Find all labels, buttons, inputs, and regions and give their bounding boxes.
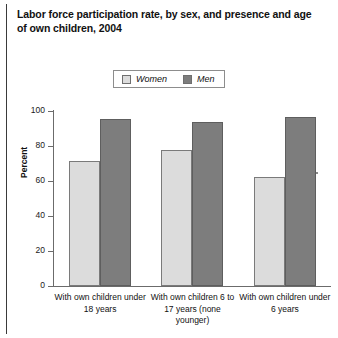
- bar-women-1: [161, 150, 192, 286]
- x-axis-category-labels: With own children under 18 years With ow…: [54, 292, 331, 327]
- y-tick-label-0: 0: [40, 280, 45, 290]
- bar-men-2: [285, 117, 316, 286]
- legend-item-women: Women: [122, 74, 167, 84]
- y-tick-label-20: 20: [36, 245, 45, 255]
- y-tick-20: 20: [48, 251, 53, 252]
- y-tick-label-100: 100: [31, 105, 45, 115]
- y-tick-80: 80: [48, 146, 53, 147]
- legend-label-men: Men: [197, 74, 215, 84]
- bar-men-0: [100, 119, 131, 286]
- stray-mark: [316, 172, 318, 174]
- chart-figure: Labor force participation rate, by sex, …: [0, 0, 338, 338]
- x-axis-label-0: With own children under 18 years: [54, 292, 146, 327]
- x-axis-label-2: With own children under 6 years: [239, 292, 331, 327]
- bar-women-0: [69, 161, 100, 286]
- y-tick-60: 60: [48, 181, 53, 182]
- legend-item-men: Men: [183, 74, 215, 84]
- x-axis-label-1: With own children 6 to 17 years (none yo…: [146, 292, 238, 327]
- bar-group-1: [161, 110, 223, 286]
- bar-men-1: [192, 122, 223, 286]
- bar-groups: [54, 110, 331, 286]
- plot-area: 0 20 40 60 80 100: [53, 110, 331, 287]
- bar-women-2: [254, 177, 285, 286]
- bar-group-2: [254, 110, 316, 286]
- page-title: Labor force participation rate, by sex, …: [17, 8, 317, 35]
- legend-swatch-women: [122, 75, 131, 84]
- y-tick-label-40: 40: [36, 210, 45, 220]
- y-tick-0: 0: [48, 286, 53, 287]
- y-tick-label-60: 60: [36, 175, 45, 185]
- chart-legend: Women Men: [113, 70, 225, 88]
- y-axis-label: Percent: [19, 147, 29, 178]
- x-axis-line: [53, 286, 331, 287]
- y-tick-label-80: 80: [36, 140, 45, 150]
- legend-swatch-men: [183, 75, 192, 84]
- y-tick-100: 100: [48, 111, 53, 112]
- legend-label-women: Women: [136, 74, 167, 84]
- y-tick-40: 40: [48, 216, 53, 217]
- bar-group-0: [69, 110, 131, 286]
